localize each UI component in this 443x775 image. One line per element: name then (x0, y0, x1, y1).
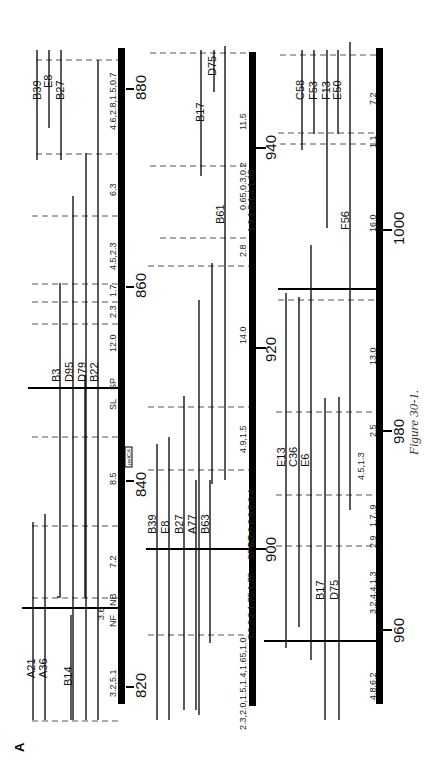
svg-text:4.8,6.2: 4.8,6.2 (368, 672, 378, 700)
svg-text:pelCA: pelCA (126, 449, 132, 465)
svg-text:SP: SP (108, 378, 118, 390)
strain-label: C58 (294, 80, 306, 100)
svg-text:1.7: 1.7 (108, 284, 118, 297)
svg-text:2.5: 2.5 (368, 424, 378, 437)
svg-text:3.2,5.1: 3.2,5.1 (108, 669, 118, 697)
svg-text:SL: SL (108, 399, 118, 410)
svg-text:NF: NF (108, 615, 118, 627)
map-coordinate: 960 (390, 618, 407, 643)
svg-text:4.9,1.5: 4.9,1.5 (238, 425, 248, 453)
strain-label: D79 (76, 362, 88, 382)
strain-label: E50 (331, 80, 343, 100)
strain-label: B17 (314, 580, 326, 600)
map-coordinate: 940 (262, 135, 279, 160)
strain-label: B27 (173, 514, 185, 534)
map-coordinate: 1000 (390, 212, 407, 245)
strain-label: F53 (307, 81, 319, 100)
svg-text:SO: SO (246, 535, 256, 548)
strain-label: B14 (62, 666, 74, 686)
map-coordinate: 840 (132, 472, 149, 497)
map-coordinate: 860 (132, 273, 149, 298)
svg-text:6.3: 6.3 (108, 183, 118, 196)
strain-label: B22 (88, 362, 100, 382)
panel-label: A (12, 742, 27, 752)
strain-label: A77 (186, 514, 198, 534)
svg-text:4.6,2.8,1.5,0.7: 4.6,2.8,1.5,0.7 (108, 72, 118, 130)
svg-text:2.3: 2.3 (108, 305, 118, 318)
genetic-map-figure: B39 E8 B27 B3 D95 D79 B22 A21 A36 B14 B3… (0, 0, 443, 775)
svg-text:1.1: 1.1 (368, 135, 378, 148)
svg-text:3.2,4.4,1.3: 3.2,4.4,1.3 (368, 571, 378, 614)
strain-label: B3 (50, 369, 62, 382)
svg-text:4.5,2.3: 4.5,2.3 (108, 242, 118, 270)
svg-text:14.0: 14.0 (238, 326, 248, 344)
svg-text:2.8: 2.8 (238, 244, 248, 257)
svg-text:13.0: 13.0 (368, 347, 378, 365)
svg-text:1.9,1.5,1.4,1.05: 1.9,1.5,1.4,1.05 (246, 169, 256, 232)
svg-text:16.0: 16.0 (368, 214, 378, 232)
svg-text:NB: NB (108, 593, 118, 606)
svg-text:4.5,1.3: 4.5,1.3 (356, 452, 366, 480)
svg-text:11.5: 11.5 (238, 113, 248, 130)
svg-text:12.0: 12.0 (108, 334, 118, 352)
strain-label: E8 (159, 521, 171, 534)
svg-text:7.2: 7.2 (108, 555, 118, 568)
strain-label: D75 (206, 56, 218, 76)
svg-text:7.2: 7.2 (368, 92, 378, 105)
strain-label: E13 (275, 447, 287, 467)
svg-text:3.6: 3.6 (96, 607, 106, 620)
strain-label: E6 (299, 454, 311, 467)
strain-label: B61 (214, 204, 226, 224)
svg-text:1.7,.9: 1.7,.9 (368, 504, 378, 527)
strain-label: D95 (63, 362, 75, 382)
strain-label: B27 (54, 80, 66, 100)
strain-label: B39 (146, 514, 158, 534)
svg-text:SP: SP (246, 548, 256, 560)
strain-label: C36 (287, 447, 299, 467)
svg-text:2.9: 2.9 (368, 535, 378, 548)
map-coordinate: 980 (390, 419, 407, 444)
map-coordinate: 900 (262, 537, 279, 562)
map-coordinate: 920 (262, 337, 279, 362)
strain-label: E8 (42, 75, 54, 88)
svg-text:3.2,2.2,1.75,1.75: 3.2,2.2,1.75,1.75 (246, 572, 256, 640)
figure-caption: Figure 30-1. (406, 390, 421, 456)
svg-text:2.3,2.0,1.5,1.4,1.65,1.0: 2.3,2.0,1.5,1.4,1.65,1.0 (238, 637, 248, 730)
map-coordinate: 880 (132, 75, 149, 100)
map-bar-1 (118, 48, 125, 704)
strain-label: A36 (37, 658, 49, 678)
strain-label: B63 (199, 514, 211, 534)
strain-label: D75 (328, 580, 340, 600)
strain-label: F56 (339, 211, 351, 230)
strain-label: A21 (25, 658, 37, 678)
map-coordinate: 820 (132, 673, 149, 698)
svg-text:8.5: 8.5 (108, 472, 118, 485)
strain-label: B17 (194, 102, 206, 122)
